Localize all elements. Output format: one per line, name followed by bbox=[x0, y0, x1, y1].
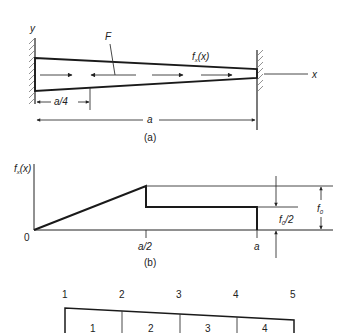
node-label: 2 bbox=[119, 289, 125, 300]
node-label: 1 bbox=[62, 289, 68, 300]
force-leader-line bbox=[110, 44, 115, 75]
length-dimension-label: a bbox=[147, 114, 153, 125]
quarter-dimension-label: a/4 bbox=[54, 96, 68, 107]
element-mesh-outline bbox=[65, 308, 294, 333]
element-label: 4 bbox=[262, 323, 268, 333]
element-label: 2 bbox=[148, 323, 154, 333]
f0-label: f0 bbox=[317, 203, 324, 215]
figure-c: 1 2 3 4 5 1 2 3 4 bbox=[62, 289, 296, 333]
half-f0-label: f0/2 bbox=[279, 214, 294, 226]
fx-axis-label: fx(x) bbox=[14, 163, 31, 175]
figure-a: y x F fx(x) bbox=[29, 23, 318, 143]
distribution-curve bbox=[34, 186, 257, 230]
force-label: F bbox=[105, 31, 112, 42]
caption-b: (b) bbox=[144, 257, 156, 268]
node-label: 4 bbox=[233, 289, 239, 300]
tick-full-label: a bbox=[254, 241, 260, 252]
tick-half-label: a/2 bbox=[138, 241, 152, 252]
element-label: 3 bbox=[205, 323, 211, 333]
x-axis-label: x bbox=[311, 69, 318, 80]
tapered-bar bbox=[35, 58, 257, 91]
figure-b: fx(x) 0 a/2 a f0/2 f0 (b) bbox=[14, 163, 333, 268]
diagram-canvas: y x F fx(x) bbox=[0, 0, 348, 333]
caption-a: (a) bbox=[144, 132, 156, 143]
element-label: 1 bbox=[90, 323, 96, 333]
distribution-label: fx(x) bbox=[192, 51, 209, 63]
node-label: 3 bbox=[176, 289, 182, 300]
y-axis-label: y bbox=[29, 23, 36, 34]
node-label: 5 bbox=[290, 289, 296, 300]
right-wall-icon bbox=[257, 50, 263, 130]
origin-label: 0 bbox=[24, 232, 30, 243]
